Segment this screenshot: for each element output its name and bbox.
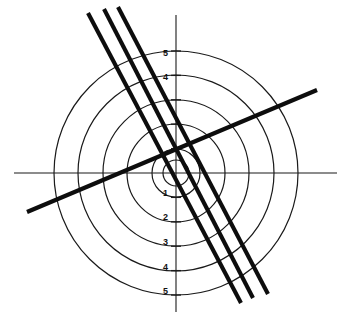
- y-axis-tick-label: 2: [163, 212, 168, 222]
- y-axis-tick-label: 4: [163, 72, 168, 82]
- y-axis-tick-label: 5: [163, 286, 168, 296]
- diagram-canvas: 5412345: [0, 0, 343, 324]
- y-axis-tick-label: 4: [163, 262, 168, 272]
- polar-diagram-figure: 5412345: [0, 0, 343, 324]
- figure-background: [0, 0, 343, 324]
- y-axis-tick-label: 5: [163, 48, 168, 58]
- y-axis-tick-label: 3: [163, 237, 168, 247]
- y-axis-tick-label: 1: [163, 188, 168, 198]
